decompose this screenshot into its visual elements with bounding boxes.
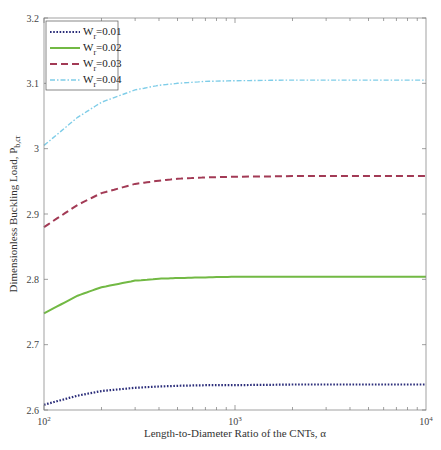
y-axis-label: Dimensionless Buckling Load, Pb,cr [7,135,22,292]
y-tick-label: 2.7 [27,339,40,350]
y-axis-label-main: Dimensionless Buckling Load, P [7,148,19,293]
x-tick-label: 104 [419,415,433,427]
legend: Wr=0.01Wr=0.02Wr=0.03Wr=0.04 [46,21,122,90]
series-line-2 [44,277,426,314]
x-axis-label: Length-to-Diameter Ratio of the CNTs, α [144,427,326,439]
x-tick-label: 103 [228,415,242,427]
x-tick-label: 102 [37,415,51,427]
y-tick-label: 3.2 [27,13,40,24]
y-tick-label: 3 [34,143,39,154]
series-lines [44,80,426,405]
buckling-load-chart: 2.62.72.82.933.13.2102103104 Length-to-D… [0,0,441,450]
series-line-1 [44,385,426,405]
y-axis-label-subscript: b,cr [13,135,22,148]
y-tick-label: 2.6 [27,405,40,416]
series-line-3 [44,176,426,227]
y-tick-label: 2.9 [27,209,40,220]
y-tick-label: 3.1 [27,78,40,89]
svg-text:Dimensionless Buckling Load, P: Dimensionless Buckling Load, Pb,cr [7,135,22,292]
y-tick-label: 2.8 [27,274,40,285]
